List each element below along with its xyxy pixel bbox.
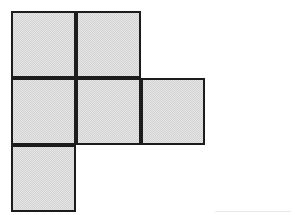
square-r0-c0	[11, 11, 76, 78]
square-r0-c1	[76, 11, 141, 78]
square-r1-c0	[11, 78, 76, 145]
faint-baseline-rule	[215, 211, 291, 212]
square-r2-c0	[11, 145, 76, 212]
figure-canvas	[0, 0, 295, 215]
square-r1-c1	[76, 78, 141, 145]
square-r1-c2	[141, 78, 205, 145]
